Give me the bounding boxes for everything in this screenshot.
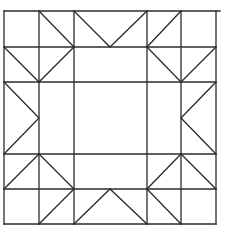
r4c1-diag <box>39 189 74 224</box>
quilt-block-diagram <box>0 0 225 227</box>
r0c3-diag <box>147 11 181 47</box>
r3c0-diag <box>4 154 39 189</box>
r3c3-diag <box>147 154 181 189</box>
r0c2-v-shape <box>74 11 147 47</box>
r1c3-diag <box>147 47 181 82</box>
r2c0-right-chevron <box>4 82 39 154</box>
r0c1-diag <box>39 11 74 47</box>
r4c3-diag <box>147 189 181 224</box>
r4c2-caret-shape <box>74 189 147 224</box>
r1c0-diag <box>4 47 39 82</box>
r3c1-diag <box>39 154 74 189</box>
grid-lines <box>4 11 220 224</box>
r1c1-diag <box>39 47 74 82</box>
r1c4-diag <box>181 47 216 82</box>
r3c4-diag <box>181 154 216 189</box>
triangle-diagonals <box>4 11 216 224</box>
r2c4-left-chevron <box>181 82 216 154</box>
